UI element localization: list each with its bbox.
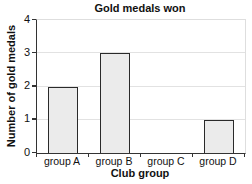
plot-area xyxy=(36,19,246,154)
y-tick-label: 1 xyxy=(0,113,30,124)
y-tick-mark xyxy=(32,52,36,54)
y-tick-mark xyxy=(32,19,36,21)
x-tick-label-group-C: group C xyxy=(140,155,192,167)
bar-group B xyxy=(100,53,130,153)
y-tick-label: 4 xyxy=(0,14,30,25)
y-tick-label: 3 xyxy=(0,47,30,58)
y-tick-mark xyxy=(32,85,36,87)
y-tick-label: 2 xyxy=(0,80,30,91)
bar-chart: Gold medals won Number of gold medals 01… xyxy=(0,0,252,184)
bar-group D xyxy=(204,120,234,153)
bar-group A xyxy=(48,87,78,154)
y-tick-mark xyxy=(32,118,36,120)
x-axis-title: Club group xyxy=(36,167,244,179)
gridline xyxy=(37,52,245,53)
x-tick-label-group-D: group D xyxy=(192,155,244,167)
x-tick-label-group-A: group A xyxy=(36,155,88,167)
y-tick-label: 0 xyxy=(0,147,30,158)
chart-title: Gold medals won xyxy=(36,2,244,14)
x-tick-label-group-B: group B xyxy=(88,155,140,167)
